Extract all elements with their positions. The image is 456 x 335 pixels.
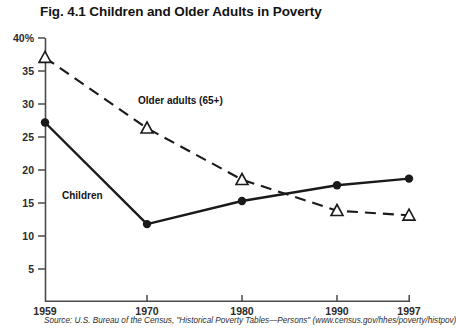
data-point-marker bbox=[405, 174, 413, 182]
data-point-marker bbox=[143, 220, 151, 228]
y-tick-label: 5 bbox=[28, 263, 34, 275]
data-point-marker bbox=[141, 122, 153, 133]
source-note: Source: U.S. Bureau of the Census, "Hist… bbox=[44, 316, 456, 325]
x-axis-ticks bbox=[147, 295, 409, 301]
y-tick-label: 10 bbox=[22, 230, 34, 242]
children-annotation-label: Children bbox=[62, 190, 103, 201]
data-point-marker bbox=[41, 118, 49, 126]
y-tick-label: 25 bbox=[22, 131, 34, 143]
older-adults-annotation-label: Older adults (65+) bbox=[138, 95, 223, 106]
y-tick-label: 30 bbox=[22, 98, 34, 110]
y-tick-label: 20 bbox=[22, 164, 34, 176]
y-tick-label: 40% bbox=[13, 32, 35, 44]
children-line bbox=[45, 123, 409, 225]
data-point-marker bbox=[238, 197, 246, 205]
y-tick-label: 35 bbox=[22, 65, 34, 77]
y-tick-label: 15 bbox=[22, 197, 34, 209]
data-point-marker bbox=[39, 51, 51, 62]
y-axis-tick-labels: 40% 35 30 25 20 15 10 5 bbox=[13, 32, 35, 275]
data-point-marker bbox=[236, 174, 248, 185]
data-point-marker bbox=[333, 181, 341, 189]
y-axis-ticks bbox=[38, 38, 45, 269]
